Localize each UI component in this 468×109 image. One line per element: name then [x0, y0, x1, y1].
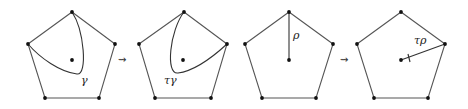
vertex — [153, 96, 157, 100]
vertex — [399, 10, 403, 14]
panel-tau-gamma: τγ — [137, 10, 229, 100]
panel-tau-rho: τρ — [355, 10, 447, 100]
vertex — [331, 42, 335, 46]
label-tau-rho: τρ — [414, 34, 427, 47]
curve-tau-gamma — [170, 12, 227, 73]
vertex — [225, 42, 229, 46]
vertex — [26, 42, 30, 46]
pentagon — [357, 12, 445, 98]
vertex — [355, 42, 359, 46]
vertex — [209, 96, 213, 100]
vertex — [314, 96, 318, 100]
vertex — [97, 96, 101, 100]
center-puncture — [70, 58, 74, 62]
arrow-squiggle: ⇝ — [340, 54, 348, 65]
center-puncture — [399, 58, 403, 62]
label-tau-gamma: τγ — [164, 74, 177, 87]
panel-rho: ρ — [243, 10, 335, 100]
panel-gamma: γ — [26, 10, 117, 100]
vertex — [426, 96, 430, 100]
vertex — [182, 10, 186, 14]
center-puncture — [181, 58, 185, 62]
center-puncture — [287, 58, 291, 62]
vertex — [260, 96, 264, 100]
curve-gamma — [28, 12, 83, 74]
vertex — [443, 42, 447, 46]
vertex — [70, 10, 74, 14]
label-rho: ρ — [292, 29, 300, 42]
diagram: γ ⇝ τγ ρ ⇝ τρ — [0, 0, 468, 109]
vertex — [243, 42, 247, 46]
arc-tick-mark — [408, 54, 410, 62]
label-gamma: γ — [81, 74, 88, 87]
vertex — [43, 96, 47, 100]
vertex — [287, 10, 291, 14]
vertex — [137, 42, 141, 46]
vertex — [113, 42, 117, 46]
vertex — [372, 96, 376, 100]
pentagon — [28, 12, 115, 98]
arrow-squiggle: ⇝ — [118, 54, 126, 65]
